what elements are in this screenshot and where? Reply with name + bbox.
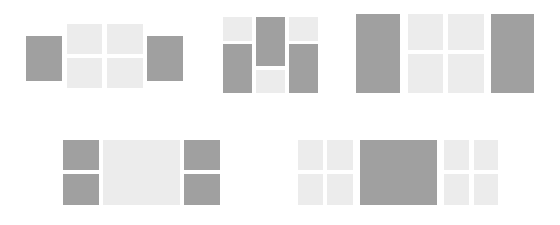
light-tile	[327, 140, 353, 170]
dark-tile	[184, 140, 220, 170]
light-tile	[408, 14, 443, 50]
dark-tile	[63, 174, 99, 205]
dark-tile	[26, 36, 62, 81]
light-tile	[444, 174, 469, 205]
light-tile	[474, 174, 498, 205]
dark-tile	[491, 14, 534, 93]
light-tile	[444, 140, 469, 170]
dark-tile	[360, 140, 437, 205]
light-tile	[67, 24, 102, 54]
light-tile	[298, 140, 323, 170]
dark-tile	[256, 17, 285, 66]
light-tile	[474, 140, 498, 170]
dark-tile	[147, 36, 183, 81]
light-tile	[223, 17, 252, 41]
dark-tile	[184, 174, 220, 205]
light-tile	[256, 70, 285, 93]
dark-tile	[356, 14, 400, 93]
light-tile	[107, 58, 143, 88]
dark-tile	[223, 44, 252, 93]
light-tile	[408, 54, 443, 93]
light-tile	[448, 14, 484, 50]
light-tile	[67, 58, 102, 88]
light-tile	[327, 174, 353, 205]
light-tile	[298, 174, 323, 205]
light-tile	[103, 140, 180, 205]
light-tile	[107, 24, 143, 54]
dark-tile	[63, 140, 99, 170]
light-tile	[289, 17, 318, 41]
light-tile	[448, 54, 484, 93]
dark-tile	[289, 44, 318, 93]
